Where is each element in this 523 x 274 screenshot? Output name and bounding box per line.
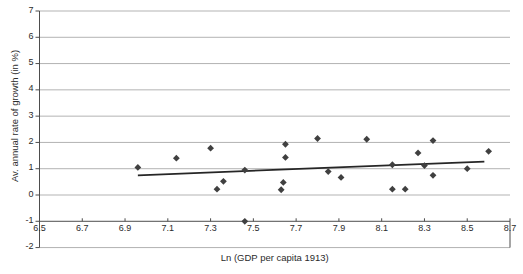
data-point-marker — [282, 154, 289, 161]
x-tick-label: 6.9 — [105, 223, 145, 233]
data-point-marker — [430, 137, 437, 144]
x-tick-label: 7.9 — [319, 223, 359, 233]
data-point-marker — [214, 186, 221, 193]
x-tick-label: 7.1 — [148, 223, 188, 233]
x-tick-label: 8.5 — [447, 223, 487, 233]
x-tick-label: 7.5 — [233, 223, 273, 233]
gridlines — [40, 37, 511, 195]
y-tick-label: 1 — [28, 162, 33, 172]
data-point-marker — [282, 141, 289, 148]
chart-canvas — [0, 0, 523, 274]
data-point-marker — [389, 161, 396, 168]
data-point-marker — [220, 178, 227, 185]
data-point-marker — [464, 165, 471, 172]
y-tick-label: 4 — [28, 83, 33, 93]
data-points — [134, 135, 492, 225]
data-point-marker — [338, 174, 345, 181]
x-tick-label: 6.7 — [62, 223, 102, 233]
scatter-chart-figure: 76543210-1-26.56.76.97.17.37.57.77.98.18… — [0, 0, 523, 274]
y-tick-label: 2 — [28, 136, 33, 146]
data-point-marker — [207, 145, 214, 152]
data-point-marker — [415, 150, 422, 157]
data-point-marker — [363, 136, 370, 143]
y-tick-label: 5 — [28, 57, 33, 67]
x-tick-label: 6.5 — [20, 223, 60, 233]
x-axis-title: Ln (GDP per capita 1913) — [40, 252, 511, 263]
y-tick-label: -2 — [25, 241, 33, 251]
x-tick-label: 8.1 — [362, 223, 402, 233]
data-point-marker — [173, 155, 180, 162]
y-tick-label: 6 — [28, 31, 33, 41]
y-tick-label: 3 — [28, 110, 33, 120]
y-axis-title: Av. annual rate of growth (in %) — [9, 50, 20, 182]
data-point-marker — [278, 186, 285, 193]
y-tick-marks — [36, 11, 40, 248]
plot-frame — [40, 11, 511, 248]
data-point-marker — [389, 186, 396, 193]
x-tick-label: 8.7 — [490, 223, 523, 233]
data-point-marker — [241, 167, 248, 174]
x-tick-label: 7.3 — [191, 223, 231, 233]
data-point-marker — [134, 164, 141, 171]
data-point-marker — [485, 148, 492, 155]
x-tick-label: 8.3 — [404, 223, 444, 233]
data-point-marker — [314, 135, 321, 142]
y-tick-label: 7 — [28, 5, 33, 15]
data-point-marker — [280, 179, 287, 186]
y-tick-label: 0 — [28, 189, 33, 199]
data-point-marker — [430, 172, 437, 179]
data-point-marker — [325, 168, 332, 175]
x-tick-label: 7.7 — [276, 223, 316, 233]
data-point-marker — [402, 186, 409, 193]
